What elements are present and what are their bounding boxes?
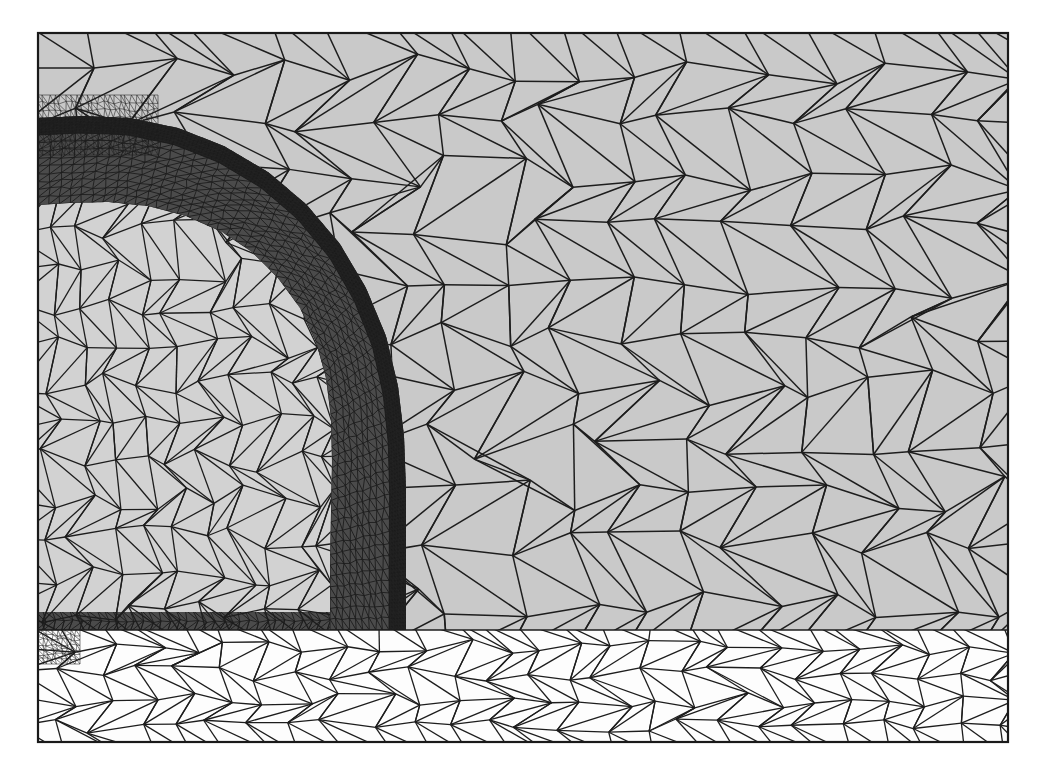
mesh-figure [0, 0, 1040, 766]
figure-root [0, 0, 1040, 766]
